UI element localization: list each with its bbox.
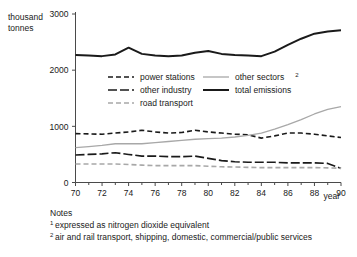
x-tick-label: 86 (283, 188, 293, 198)
y-axis-title-line1: thousand (8, 12, 43, 22)
x-tick-label: 80 (204, 188, 214, 198)
y-axis-title-line2: tonnes (8, 23, 34, 33)
note-marker: 1 (50, 220, 54, 226)
y-tick-label: 3000 (50, 9, 69, 19)
note-text: air and rail transport, shipping, domest… (55, 232, 312, 242)
note-marker: 2 (50, 232, 54, 238)
emissions-line-chart: thousand tonnes 0100020003000 7072747678… (0, 0, 357, 257)
x-tick-label: 76 (150, 188, 160, 198)
series-line-other-sectors (76, 107, 342, 148)
x-tick-label: 82 (230, 188, 240, 198)
x-axis-ticks: 7072747678808284868890 (71, 183, 346, 198)
x-axis-title: year (323, 191, 340, 201)
x-tick-label: 88 (310, 188, 320, 198)
series-line-total-emissions (76, 30, 342, 56)
y-tick-label: 2000 (50, 65, 69, 75)
legend-label-power-stations: power stations (140, 72, 195, 82)
legend-label-total-emissions: total emissions (235, 85, 291, 95)
x-tick-label: 74 (124, 188, 134, 198)
x-tick-label: 72 (97, 188, 107, 198)
chart-legend: power stationsother industryroad transpo… (108, 72, 299, 109)
x-tick-label: 70 (71, 188, 81, 198)
note-text: expressed as nitrogen dioxide equivalent (55, 220, 210, 230)
y-tick-label: 0 (64, 178, 69, 188)
legend-label-road-transport: road transport (140, 98, 194, 108)
legend-label-other-sectors: other sectors (235, 72, 284, 82)
notes-list: 1expressed as nitrogen dioxide equivalen… (50, 220, 312, 243)
series-line-road-transport (76, 164, 342, 168)
x-tick-label: 84 (257, 188, 267, 198)
legend-superscript: 2 (295, 72, 299, 78)
y-tick-label: 1000 (50, 122, 69, 132)
legend-label-other-industry: other industry (140, 85, 192, 95)
series-line-power-stations (76, 130, 342, 138)
data-series-group (76, 30, 342, 168)
x-tick-label: 78 (177, 188, 187, 198)
y-axis-ticks: 0100020003000 (50, 9, 76, 188)
notes-heading: Notes (50, 208, 72, 218)
